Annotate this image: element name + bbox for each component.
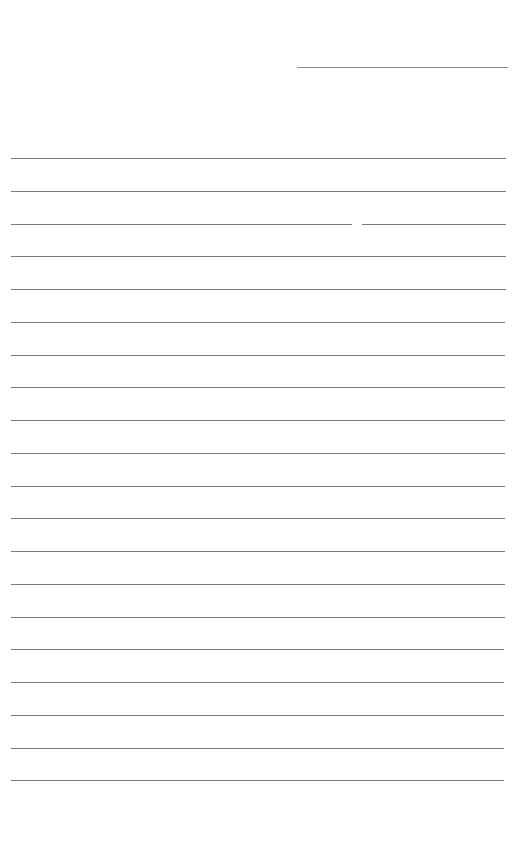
lined-paper-page: [0, 0, 530, 862]
ruled-line: [11, 256, 506, 257]
ruled-line: [11, 420, 505, 421]
ruled-line: [11, 289, 506, 290]
ruled-line: [11, 748, 504, 749]
ruled-line: [11, 780, 504, 781]
ruled-line: [11, 322, 505, 323]
ruled-line: [11, 486, 505, 487]
line-gap: [352, 223, 362, 226]
ruled-line: [11, 224, 506, 225]
ruled-line: [11, 584, 505, 585]
ruled-line: [11, 191, 506, 192]
ruled-line: [11, 453, 505, 454]
ruled-line: [11, 682, 504, 683]
ruled-line: [11, 715, 504, 716]
ruled-line: [11, 158, 506, 159]
ruled-lines: [0, 0, 530, 862]
ruled-line: [11, 551, 505, 552]
ruled-line: [11, 649, 504, 650]
ruled-line: [11, 387, 505, 388]
ruled-line: [11, 355, 505, 356]
ruled-line: [11, 617, 505, 618]
ruled-line: [11, 518, 505, 519]
